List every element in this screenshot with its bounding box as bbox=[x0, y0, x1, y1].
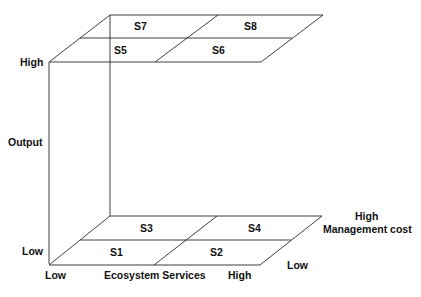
cell-s1: S1 bbox=[110, 246, 123, 258]
top-plane: S7 S8 S5 S6 bbox=[49, 15, 323, 62]
management-high-label: High bbox=[355, 210, 378, 222]
cell-s5: S5 bbox=[114, 44, 127, 56]
management-low-label: Low bbox=[287, 259, 309, 271]
cell-s8: S8 bbox=[244, 20, 257, 32]
cell-s7: S7 bbox=[134, 20, 147, 32]
scenario-cube-diagram: S7 S8 S5 S6 S3 S4 S1 S2 High Output Low … bbox=[0, 0, 421, 297]
ecosystem-axis-title: Ecosystem Services bbox=[104, 269, 206, 281]
output-low-label: Low bbox=[22, 245, 44, 257]
ecosystem-low-label: Low bbox=[45, 269, 67, 281]
management-axis-title: Management cost bbox=[323, 223, 412, 235]
bottom-plane-divider bbox=[154, 216, 217, 265]
cell-s2: S2 bbox=[210, 246, 223, 258]
cell-s3: S3 bbox=[140, 222, 153, 234]
ecosystem-high-label: High bbox=[228, 269, 251, 281]
output-axis-title: Output bbox=[8, 136, 43, 148]
cell-s4: S4 bbox=[248, 222, 261, 234]
top-plane-divider bbox=[155, 15, 218, 62]
bottom-plane: S3 S4 S1 S2 bbox=[49, 216, 322, 265]
cell-s6: S6 bbox=[212, 44, 225, 56]
output-high-label: High bbox=[20, 56, 43, 68]
